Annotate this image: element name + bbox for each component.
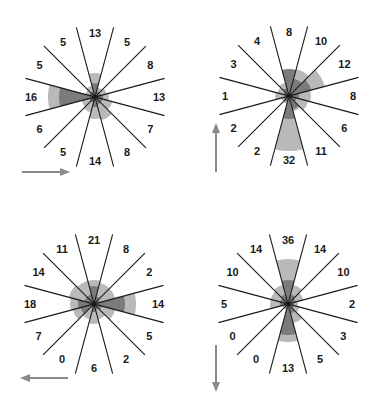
- sector-count-label: 2: [123, 353, 129, 365]
- light-wedges: [275, 69, 325, 151]
- sector-count-label: 8: [286, 26, 292, 38]
- sector-count-label: 13: [89, 27, 101, 39]
- sector-count-label: 1: [222, 90, 228, 102]
- sector-count-label: 21: [88, 234, 100, 246]
- sector-count-label: 36: [282, 234, 294, 246]
- sector-count-label: 10: [315, 35, 327, 47]
- sector-count-label: 4: [254, 35, 261, 47]
- sector-count-label: 3: [231, 58, 237, 70]
- center-point: [93, 95, 97, 99]
- sector-count-label: 8: [147, 59, 153, 71]
- sector-count-label: 0: [59, 353, 65, 365]
- sector-count-label: 16: [25, 91, 37, 103]
- arrow-down-icon: [212, 345, 220, 392]
- sector-count-label: 18: [24, 298, 36, 310]
- sector-count-label: 2: [231, 122, 237, 134]
- center-point: [287, 94, 291, 98]
- sector-count-label: 5: [146, 330, 152, 342]
- sector-count-label: 14: [32, 266, 45, 278]
- sector-count-label: 0: [230, 330, 236, 342]
- sector-count-label: 5: [60, 146, 66, 158]
- sector-count-label: 2: [254, 145, 260, 157]
- sector-count-label: 5: [60, 36, 66, 48]
- sector-count-label: 32: [283, 154, 295, 166]
- sector-count-label: 11: [56, 243, 68, 255]
- sector-count-label: 5: [221, 298, 227, 310]
- rose-diagram-figure: 1358137814561655 8101286113222134 218214…: [0, 0, 375, 402]
- sector-count-label: 6: [91, 362, 97, 374]
- sector-count-label: 7: [36, 330, 42, 342]
- sector-count-label: 10: [337, 266, 349, 278]
- sector-count-label: 5: [124, 36, 130, 48]
- sector-count-label: 14: [314, 243, 327, 255]
- sector-count-label: 13: [282, 362, 294, 374]
- sector-count-label: 13: [153, 91, 165, 103]
- sector-count-label: 5: [317, 353, 323, 365]
- sector-count-label: 8: [350, 90, 356, 102]
- sector-count-label: 7: [147, 123, 153, 135]
- sector-count-label: 8: [124, 146, 130, 158]
- sector-count-label: 6: [37, 123, 43, 135]
- sector-count-label: 12: [338, 58, 350, 70]
- rose-diagram-panel-4: 361410235130051014: [212, 234, 358, 392]
- sector-count-label: 6: [341, 122, 347, 134]
- rose-diagram-panel-2: 8101286113222134: [212, 26, 359, 172]
- sector-count-label: 2: [146, 266, 152, 278]
- sector-count-label: 14: [89, 155, 102, 167]
- center-point: [92, 302, 96, 306]
- sector-count-label: 5: [37, 59, 43, 71]
- sector-count-label: 0: [253, 353, 259, 365]
- sector-count-label: 3: [340, 330, 346, 342]
- sector-count-label: 8: [123, 243, 129, 255]
- arrow-right-icon: [22, 168, 70, 176]
- sector-count-label: 2: [349, 298, 355, 310]
- sector-count-label: 14: [152, 298, 165, 310]
- sector-count-label: 10: [226, 266, 238, 278]
- sector-count-label: 14: [250, 243, 263, 255]
- rose-diagram-panel-3: 21821452607181411: [20, 234, 165, 382]
- center-point: [286, 302, 290, 306]
- arrow-up-icon: [212, 123, 220, 172]
- sector-count-label: 11: [315, 145, 327, 157]
- rose-diagram-panel-1: 1358137814561655: [22, 27, 165, 176]
- arrow-left-icon: [20, 374, 68, 382]
